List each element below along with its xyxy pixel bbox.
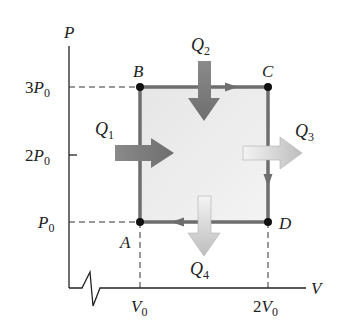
point-c	[264, 83, 272, 91]
point-b	[136, 83, 144, 91]
x-tick-v0: V0	[131, 297, 147, 319]
y-tick-2p0: 2P0	[25, 146, 50, 168]
y-tick-p0: P0	[37, 213, 54, 235]
q1-label: Q1	[95, 119, 114, 142]
point-a-label: A	[119, 233, 131, 252]
point-a	[136, 218, 144, 226]
y-axis-label: P	[63, 23, 74, 42]
point-c-label: C	[262, 62, 274, 81]
x-tick-2v0: 2V0	[253, 297, 278, 319]
q2-label: Q2	[191, 35, 210, 58]
y-tick-3p0: 3P0	[25, 78, 50, 100]
q4-label: Q4	[190, 259, 209, 282]
point-d-label: D	[278, 214, 292, 233]
pv-diagram: P V 3P0 2P0 P0 V0 2V0 A B C D Q1 Q2 Q3 Q…	[0, 0, 342, 336]
q3-label: Q3	[295, 121, 314, 144]
point-b-label: B	[133, 62, 144, 81]
point-d	[264, 218, 272, 226]
x-axis-label: V	[311, 279, 324, 298]
